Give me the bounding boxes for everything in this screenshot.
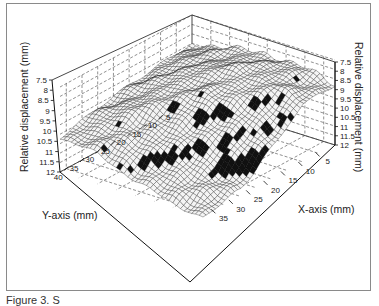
x-tick-label: 30: [236, 205, 245, 214]
y-tick-label: 15: [132, 130, 141, 139]
x-tick-label: 10: [306, 167, 315, 176]
x-tick-label: 25: [254, 195, 263, 204]
z-tick-label-left: 7.5: [36, 76, 48, 85]
y-axis-title: Y-axis (mm): [42, 209, 98, 221]
y-tick-label: 35: [70, 164, 79, 173]
y-tick-label: 10: [148, 121, 157, 130]
z-tick-label-right: 8: [340, 67, 345, 76]
x-tick-label: 20: [271, 186, 280, 195]
z-tick-label-left: 9: [45, 107, 50, 116]
y-tick-label: 40: [54, 173, 63, 182]
z-tick-label-left: 8: [43, 86, 48, 95]
z-tick-label-left: 10.5: [37, 137, 53, 146]
z-tick-label-left: 11.5: [39, 158, 55, 167]
y-tick-label: 30: [85, 155, 94, 164]
z-tick-label-left: 11: [45, 148, 54, 157]
y-tick-label: 20: [117, 138, 126, 147]
z-tick-label-right: 9.5: [340, 95, 352, 104]
z-tick-label-right: 7.5: [340, 58, 352, 67]
x-tick-label: 5: [325, 157, 330, 166]
z-tick-label-left: 9.5: [39, 117, 51, 126]
surface-mesh: [60, 43, 335, 217]
z-axis-title-right: Relative displacement (mm): [353, 42, 365, 172]
x-tick-label: 35: [219, 214, 228, 223]
z-tick-label-right: 12: [340, 141, 349, 150]
z-tick-label-right: 10: [340, 104, 349, 113]
y-tick-label: 5: [166, 113, 171, 122]
z-tick-label-right: 9: [340, 86, 345, 95]
z-tick-label-left: 8.5: [38, 96, 50, 105]
figure-caption: Figure 3. S: [6, 294, 60, 306]
x-axis-title: X-axis (mm): [298, 203, 355, 215]
x-tick-label: 15: [288, 176, 297, 185]
z-tick-label-left: 10: [43, 127, 52, 136]
y-tick-label: 25: [101, 147, 110, 156]
z-tick-label-right: 11: [340, 123, 349, 132]
z-axis-title-left: Relative displacement (mm): [18, 42, 30, 172]
z-tick-label-right: 8.5: [340, 76, 352, 85]
